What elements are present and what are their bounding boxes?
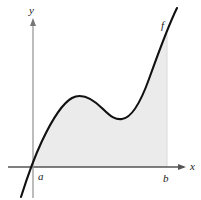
- point-label-a: a: [38, 170, 44, 182]
- y-axis-label: y: [28, 4, 34, 16]
- y-axis-arrowhead: [30, 18, 36, 26]
- figure-container: y x f a b: [0, 0, 201, 200]
- area-under-curve-figure: y x f a b: [0, 0, 201, 200]
- point-label-b: b: [163, 172, 169, 184]
- x-axis-arrowhead: [178, 164, 186, 170]
- shaded-area-region: [33, 32, 167, 167]
- curve-label-f: f: [161, 19, 166, 31]
- x-axis-label: x: [189, 160, 195, 172]
